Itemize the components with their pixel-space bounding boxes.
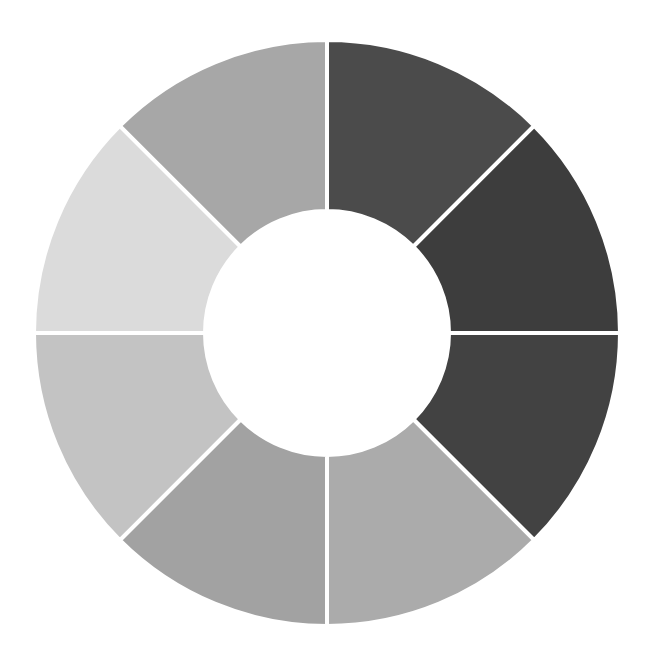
donut-hole: [205, 211, 449, 455]
donut-chart-canvas: [0, 0, 654, 663]
donut-chart: [0, 0, 654, 663]
